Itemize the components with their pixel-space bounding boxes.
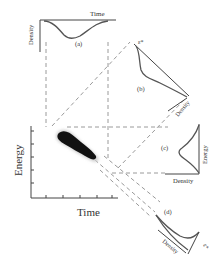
panel-d: (d) ε* Density — [156, 208, 210, 255]
panel-b-symbol: ε* — [138, 39, 144, 45]
panel-c-curve — [179, 125, 199, 173]
panel-d-symbol-axis — [188, 232, 199, 254]
panel-d-curve-outer — [156, 215, 199, 238]
projection-diagram: Time Density (a) ε* (b) Density (c) Dens… — [0, 0, 221, 277]
panel-a-curve — [44, 21, 108, 38]
panel-b: ε* (b) Density — [134, 39, 191, 118]
proj-b-1 — [52, 42, 130, 126]
panel-a-xlabel: Time — [90, 10, 105, 18]
panel-a: Time Density (a) — [27, 10, 116, 52]
main-xlabel: Time — [77, 206, 100, 218]
scatter-cloud — [57, 131, 96, 159]
panel-a-label: (a) — [75, 40, 82, 48]
panel-d-symbol: ε* — [202, 243, 210, 251]
proj-d-1 — [95, 160, 155, 212]
panel-c-ylabel: Energy — [201, 145, 208, 164]
proj-d-2 — [100, 170, 150, 216]
proj-b-2 — [118, 98, 186, 168]
main-ylabel: Energy — [12, 144, 24, 176]
panel-a-ylabel: Density — [27, 24, 34, 45]
panel-c-label: (c) — [161, 144, 168, 152]
projection-lines — [46, 42, 186, 216]
panel-c: (c) Density Energy — [161, 124, 208, 184]
panel-c-xlabel: Density — [173, 177, 194, 184]
panel-b-label: (b) — [137, 85, 145, 93]
panel-d-label: (d) — [164, 208, 172, 216]
